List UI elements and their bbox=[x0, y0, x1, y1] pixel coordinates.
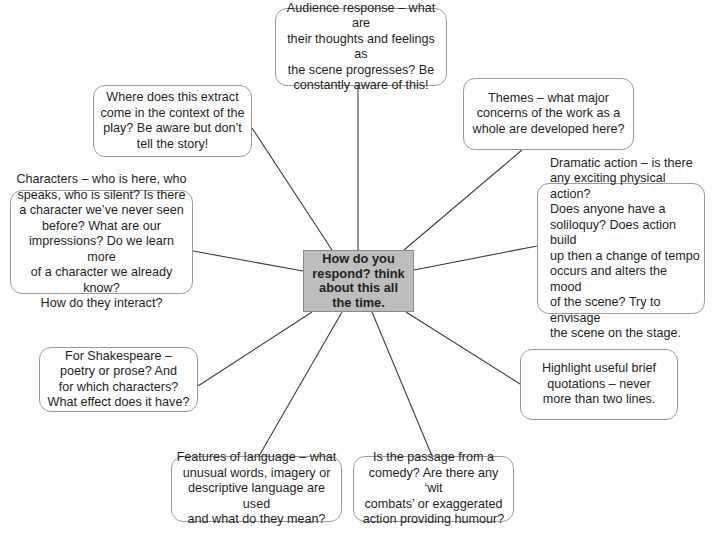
node-text: Dramatic action – is there any exciting … bbox=[550, 156, 700, 342]
node-text: Features of language – what unusual word… bbox=[176, 450, 337, 528]
connector-quotations bbox=[406, 312, 520, 384]
node-text: Themes – what major concerns of the work… bbox=[473, 91, 625, 138]
connector-shakespeare bbox=[198, 312, 312, 386]
node-extract-context: Where does this extract come in the cont… bbox=[93, 85, 252, 157]
node-quotations: Highlight useful brief quotations – neve… bbox=[520, 349, 678, 420]
connector-themes bbox=[404, 150, 522, 250]
node-text: For Shakespeare – poetry or prose? And f… bbox=[48, 349, 190, 411]
connector-dramatic bbox=[414, 246, 537, 270]
connector-characters bbox=[193, 251, 303, 271]
node-characters: Characters – who is here, who speaks, wh… bbox=[10, 190, 193, 294]
node-shakespeare: For Shakespeare – poetry or prose? And f… bbox=[39, 347, 198, 412]
node-audience-response: Audience response – what are their thoug… bbox=[275, 8, 447, 86]
node-text: Where does this extract come in the cont… bbox=[100, 90, 244, 152]
node-dramatic-action: Dramatic action – is there any exciting … bbox=[537, 183, 705, 314]
central-question-text: How do you respond? think about this all… bbox=[312, 252, 404, 310]
connector-context bbox=[252, 128, 332, 250]
node-text: Characters – who is here, who speaks, wh… bbox=[15, 172, 188, 312]
node-themes: Themes – what major concerns of the work… bbox=[463, 78, 634, 150]
connector-comedy bbox=[372, 312, 432, 456]
node-text: Highlight useful brief quotations – neve… bbox=[542, 361, 656, 408]
central-question-box: How do you respond? think about this all… bbox=[303, 250, 414, 312]
node-text: Is the passage from a comedy? Are there … bbox=[358, 450, 509, 528]
node-language-features: Features of language – what unusual word… bbox=[171, 456, 342, 522]
node-comedy: Is the passage from a comedy? Are there … bbox=[353, 456, 514, 522]
connector-language bbox=[259, 312, 342, 456]
node-text: Audience response – what are their thoug… bbox=[280, 1, 442, 94]
